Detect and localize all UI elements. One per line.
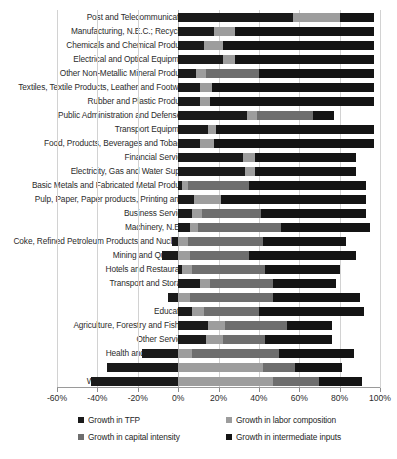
bar-row — [57, 346, 380, 360]
bar-segment — [190, 223, 198, 232]
bar-segment — [178, 69, 196, 78]
bar-segment — [178, 83, 200, 92]
axis-tick — [57, 388, 58, 392]
bar-segment — [178, 97, 200, 106]
axis-tick-label: -20% — [128, 393, 148, 403]
bar-segment — [273, 293, 360, 302]
bar-segment — [194, 195, 220, 204]
stacked-bar — [57, 307, 380, 316]
legend-label: Growth in capital intensity — [88, 432, 180, 442]
bar-segment — [196, 69, 206, 78]
bar-segment — [257, 111, 314, 120]
legend-item[interactable]: Growth in TFP — [78, 415, 140, 425]
legend-item[interactable]: Growth in intermediate inputs — [226, 432, 341, 442]
bar-segment — [273, 279, 336, 288]
legend-item[interactable]: Growth in labor composition — [226, 415, 336, 425]
bar-segment — [178, 195, 194, 204]
axis-tick-label: -40% — [87, 393, 107, 403]
bar-segment — [200, 139, 214, 148]
axis-tick-label: 80% — [331, 393, 348, 403]
bar-row — [57, 304, 380, 318]
bar-segment — [200, 97, 210, 106]
bar-segment — [225, 321, 288, 330]
bar-segment — [178, 223, 190, 232]
chart-legend: Growth in TFPGrowth in labor composition… — [78, 415, 378, 451]
bar-row — [57, 374, 380, 388]
stacked-bar — [57, 83, 380, 92]
bar-row — [57, 192, 380, 206]
stacked-bar — [57, 293, 380, 302]
bar-segment — [190, 251, 249, 260]
bar-row — [57, 52, 380, 66]
bar-segment — [210, 97, 374, 106]
stacked-bar — [57, 363, 380, 372]
bar-segment — [204, 307, 259, 316]
axis-tick — [138, 388, 139, 392]
bar-row — [57, 66, 380, 80]
bar-segment — [319, 377, 361, 386]
bar-segment — [295, 363, 341, 372]
bar-segment — [206, 69, 258, 78]
bar-segment — [162, 251, 178, 260]
stacked-bar — [57, 13, 380, 22]
legend-item[interactable]: Growth in capital intensity — [78, 432, 180, 442]
legend-swatch — [78, 434, 84, 440]
bar-segment — [192, 349, 279, 358]
bar-segment — [340, 13, 374, 22]
legend-swatch — [226, 434, 232, 440]
bar-segment — [212, 83, 374, 92]
bar-segment — [216, 125, 373, 134]
axis-tick — [97, 388, 98, 392]
bar-segment — [259, 69, 374, 78]
bar-segment — [265, 265, 340, 274]
bar-row — [57, 332, 380, 346]
bar-segment — [178, 209, 192, 218]
bar-segment — [279, 349, 354, 358]
bar-segment — [178, 279, 200, 288]
bar-segment — [265, 335, 332, 344]
plot-area — [57, 10, 380, 388]
bar-segment — [200, 279, 210, 288]
stacked-bar — [57, 125, 380, 134]
bar-row — [57, 10, 380, 24]
bar-row — [57, 24, 380, 38]
bar-segment — [178, 13, 293, 22]
bar-segment — [247, 111, 257, 120]
stacked-bar — [57, 349, 380, 358]
axis-tick-label: -60% — [47, 393, 67, 403]
axis-tick — [219, 388, 220, 392]
bar-segment — [182, 265, 192, 274]
axis-tick-label: 40% — [250, 393, 267, 403]
bar-segment — [178, 237, 188, 246]
bar-segment — [178, 293, 190, 302]
bar-segment — [178, 321, 208, 330]
bar-segment — [313, 111, 333, 120]
bar-row — [57, 80, 380, 94]
bar-row — [57, 360, 380, 374]
bar-segment — [243, 153, 255, 162]
axis-tick — [380, 388, 381, 392]
bar-segment — [200, 83, 212, 92]
axis-tick-label: 0% — [172, 393, 184, 403]
bar-segment — [223, 55, 235, 64]
bar-segment — [204, 41, 222, 50]
bar-row — [57, 108, 380, 122]
stacked-bar — [57, 209, 380, 218]
stacked-bar — [57, 279, 380, 288]
bar-row — [57, 206, 380, 220]
axis-tick — [299, 388, 300, 392]
gridline — [380, 10, 381, 388]
bar-segment — [273, 377, 319, 386]
bar-segment — [178, 377, 273, 386]
stacked-bar — [57, 237, 380, 246]
stacked-bar — [57, 111, 380, 120]
bar-segment — [255, 167, 356, 176]
bar-segment — [192, 209, 202, 218]
bar-row — [57, 164, 380, 178]
bar-segment — [91, 377, 178, 386]
bar-segment — [293, 13, 339, 22]
bar-segment — [223, 335, 265, 344]
stacked-bar — [57, 251, 380, 260]
legend-label: Growth in labor composition — [236, 415, 336, 425]
bar-segment — [188, 181, 249, 190]
